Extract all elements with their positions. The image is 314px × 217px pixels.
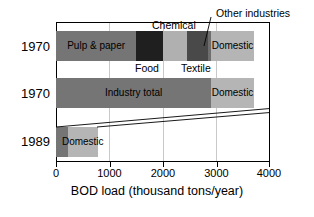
category-label-row1: 1970 — [4, 39, 50, 54]
tick-label-3000: 3000 — [197, 167, 237, 179]
segment-domestic-1970-detail[interactable]: Domestic — [211, 31, 254, 61]
x-axis-title: BOD load (thousand tons/year) — [0, 184, 314, 198]
annotation-food: Food — [135, 62, 159, 74]
segment-pulp-paper[interactable]: Pulp & paper — [56, 31, 136, 61]
tick-label-1000: 1000 — [90, 167, 130, 179]
segment-domestic-1970-total[interactable]: Domestic — [211, 78, 254, 108]
tick-label-0: 0 — [36, 167, 76, 179]
bar-row-1970-detail: Pulp & paper Domestic — [56, 31, 270, 61]
tick-label-4000: 4000 — [249, 167, 289, 179]
segment-industry-total[interactable]: Industry total — [56, 78, 211, 108]
segment-food[interactable] — [136, 31, 163, 61]
bar-row-1989: Domestic — [56, 127, 270, 157]
segment-label-domestic-1970-total: Domestic — [212, 88, 254, 98]
bod-load-chart: Pulp & paper Domestic Industry total Dom… — [0, 0, 314, 217]
segment-industry-1989[interactable] — [56, 127, 68, 157]
segment-label-pulp-paper: Pulp & paper — [67, 41, 125, 51]
segment-chemical[interactable] — [163, 31, 187, 61]
annotation-other-industries: Other industries — [216, 7, 290, 19]
segment-textile[interactable] — [187, 31, 208, 61]
category-label-row2: 1970 — [4, 86, 50, 101]
segment-label-domestic-1989: Domestic — [62, 137, 104, 147]
segment-label-domestic-1970-detail: Domestic — [212, 41, 254, 51]
tick-label-2000: 2000 — [143, 167, 183, 179]
segment-label-industry-total: Industry total — [105, 88, 162, 98]
category-label-row3: 1989 — [4, 134, 50, 149]
annotation-textile: Textile — [181, 62, 211, 74]
segment-domestic-1989[interactable]: Domestic — [68, 127, 98, 157]
bar-row-1970-total: Industry total Domestic — [56, 78, 270, 108]
annotation-chemical: Chemical — [152, 19, 196, 31]
